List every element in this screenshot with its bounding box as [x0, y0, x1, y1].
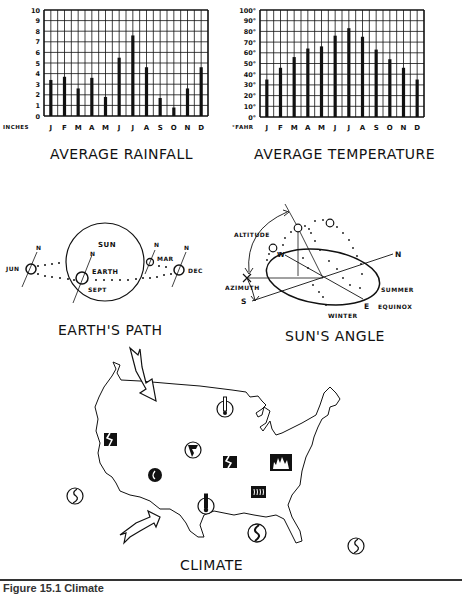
temperature-grid: [260, 10, 424, 117]
climate-title: CLIMATE: [180, 557, 243, 573]
altitude-arc: [249, 212, 287, 272]
bar: [159, 98, 162, 116]
north-label-dec: N: [184, 244, 190, 251]
month-label: A: [305, 124, 311, 132]
rainfall-title: AVERAGE RAINFALL: [50, 146, 193, 162]
y-tick-label: 10°: [244, 103, 256, 111]
suns-angle-title: SUN'S ANGLE: [285, 328, 385, 344]
bar: [402, 68, 405, 117]
hurricane-icon-gulf: [248, 524, 266, 542]
y-tick-label: 7: [35, 38, 40, 46]
month-label: J: [117, 124, 121, 132]
month-label: F: [62, 124, 67, 132]
month-label: A: [89, 124, 95, 132]
y-tick-label: 2: [35, 91, 40, 99]
rainfall-months: JFMAMJJASOND: [49, 124, 205, 132]
y-tick-label: 4: [35, 70, 40, 78]
temperature-yticks: 0°10°20°30°40°50°60°70°80°90°100°: [239, 7, 256, 122]
y-tick-label: 80°: [244, 28, 256, 36]
summer-label: SUMMER: [381, 286, 414, 293]
south-label: S: [241, 297, 247, 306]
bar: [77, 88, 80, 116]
earth-label: EARTH: [92, 268, 119, 276]
sun-label: SUN: [98, 241, 116, 249]
y-tick-label: 100°: [239, 7, 256, 15]
azimuth-label: AZIMUTH: [225, 284, 260, 291]
month-label: J: [347, 124, 351, 132]
rainfall-chart: 012345678910 JFMAMJJASOND INCHES AVERAGE…: [0, 0, 230, 175]
sun-high: [326, 219, 334, 227]
month-label: J: [333, 124, 337, 132]
bar: [320, 46, 323, 117]
month-label: O: [171, 124, 177, 132]
month-label: M: [318, 124, 325, 132]
month-label: N: [185, 124, 191, 132]
y-tick-label: 0: [35, 113, 40, 121]
rainfall-yticks: 012345678910: [31, 7, 41, 121]
tornado-icon: [185, 442, 201, 458]
bar: [131, 35, 134, 116]
bar: [361, 37, 364, 117]
sun-low: [269, 244, 277, 252]
fire-icon: [270, 454, 292, 471]
month-label: J: [131, 124, 135, 132]
y-tick-label: 40°: [244, 71, 256, 79]
sun-summer: [294, 224, 302, 232]
warm-front-arrow-icon: [120, 511, 160, 543]
y-tick-label: 10: [31, 7, 41, 15]
bar: [90, 78, 93, 116]
climate-map: CLIMATE: [0, 345, 462, 577]
bar: [145, 67, 148, 116]
y-tick-label: 0°: [248, 114, 256, 122]
rainfall-grid: [44, 10, 208, 116]
sept-label: SEPT: [88, 286, 107, 293]
temperature-chart: 0°10°20°30°40°50°60°70°80°90°100° JFMAMJ…: [230, 0, 462, 175]
temperature-unit-label: °FAHR: [232, 124, 254, 130]
us-outline: [95, 362, 340, 543]
y-tick-label: 1: [35, 102, 40, 110]
month-label: M: [291, 124, 298, 132]
bar: [334, 36, 337, 117]
temperature-months: JFMAMJJASOND: [265, 124, 421, 132]
hurricane-icon-atlantic: [348, 538, 364, 554]
jun-label: JUN: [5, 265, 20, 273]
north-label: N: [395, 250, 402, 259]
y-tick-label: 60°: [244, 49, 256, 57]
y-tick-label: 50°: [244, 60, 256, 68]
north-label-mar: N: [154, 241, 160, 248]
west-east-axis: [285, 255, 363, 299]
month-label: M: [75, 124, 82, 132]
earthquake-icon-central: [223, 456, 237, 468]
y-tick-label: 5: [35, 60, 40, 68]
figure-caption: Figure 15.1 Climate: [3, 582, 104, 594]
bar: [279, 68, 282, 117]
month-label: D: [198, 124, 204, 132]
bar: [347, 28, 350, 117]
mar-label: MAR: [157, 255, 174, 262]
y-tick-label: 6: [35, 49, 40, 57]
y-tick-label: 90°: [244, 17, 256, 25]
month-label: S: [374, 124, 379, 132]
humidity-icon: [251, 486, 266, 498]
hurricane-icon-pacific: [67, 488, 83, 504]
east-label: E: [364, 302, 370, 311]
cold-front-arrow-icon: [130, 348, 156, 401]
thermometer-hot-icon: [198, 494, 214, 514]
winter-label: WINTER: [328, 312, 358, 319]
bar: [265, 80, 268, 117]
bar: [375, 50, 378, 117]
bar: [63, 77, 66, 116]
y-tick-label: 30°: [244, 81, 256, 89]
bar: [306, 49, 309, 117]
y-tick-label: 8: [35, 28, 40, 36]
y-tick-label: 9: [35, 17, 40, 25]
north-label-sept: N: [90, 250, 96, 257]
month-label: D: [414, 124, 420, 132]
month-label: J: [49, 124, 53, 132]
suns-angle-diagram: ALTITUDE AZIMUTH N S E W SUMMER EQUINOX …: [225, 190, 462, 350]
month-label: F: [278, 124, 283, 132]
temperature-title: AVERAGE TEMPERATURE: [254, 146, 435, 162]
sun-path-dots: [266, 219, 363, 306]
bar: [416, 80, 419, 117]
month-label: O: [387, 124, 393, 132]
